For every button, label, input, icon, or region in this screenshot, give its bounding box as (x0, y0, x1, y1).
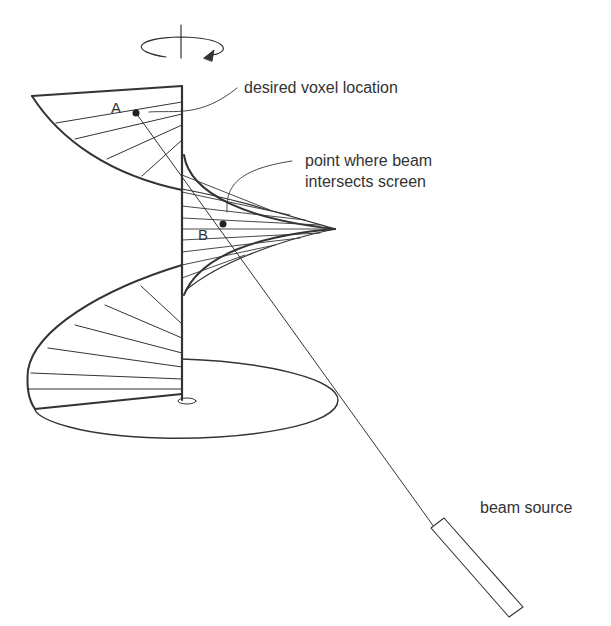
top-fin (32, 86, 182, 190)
source-label: beam source (480, 498, 573, 517)
point-a-label: A (111, 99, 121, 116)
intersect-label-line2: intersects screen (305, 172, 426, 191)
intersect-leader (227, 161, 292, 212)
bottom-fin (27, 265, 182, 409)
intersect-label-line1: point where beam (305, 151, 432, 170)
beam-source (431, 518, 523, 617)
rotation-arrow-icon (141, 25, 223, 61)
axis-base (178, 398, 196, 404)
voxel-label: desired voxel location (244, 78, 398, 97)
point-b-marker (220, 221, 227, 228)
point-a-marker (133, 110, 140, 117)
floor-ellipse (35, 359, 338, 438)
point-b-label: B (198, 226, 208, 243)
voxel-leader (149, 88, 237, 112)
